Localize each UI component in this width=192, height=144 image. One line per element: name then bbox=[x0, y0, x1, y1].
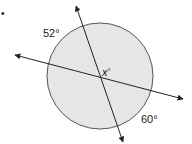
arc-label-60: 60° bbox=[141, 113, 158, 125]
arc-label-52: 52° bbox=[43, 27, 60, 39]
geometry-diagram: • 52° x° 60° bbox=[0, 0, 192, 144]
angle-degree-symbol: ° bbox=[108, 67, 111, 76]
bullet-marker: • bbox=[1, 8, 5, 19]
